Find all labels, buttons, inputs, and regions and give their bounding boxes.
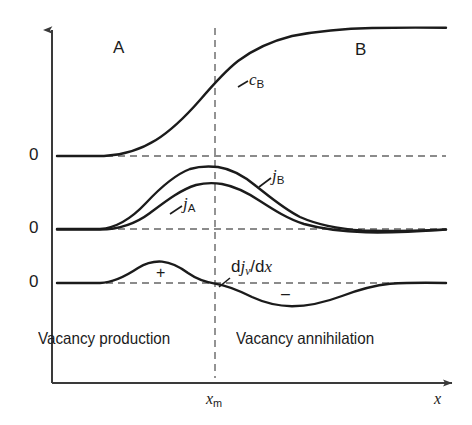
leader-line-jb <box>259 178 271 187</box>
sign-minus-label: – <box>281 286 290 302</box>
curve-label-cb-symbol: c <box>249 70 257 89</box>
phase-label-b: B <box>355 41 367 58</box>
leader-lines-layer <box>0 0 472 425</box>
curve-label-djv-x: x <box>265 257 273 276</box>
leader-line-ja <box>170 206 182 214</box>
curve-label-cb: cB <box>249 71 264 91</box>
curve-label-ja-subscript: A <box>188 202 196 214</box>
xm-tick-label: xm <box>206 391 222 409</box>
leader-line-cb <box>238 81 248 87</box>
xm-tick-subscript: m <box>213 397 222 409</box>
leader-line-djv <box>219 278 230 287</box>
region-label-vacancy-annihilation: Vacancy annihilation <box>236 330 374 347</box>
phase-label-a: A <box>113 39 125 56</box>
zero-label-flux: 0 <box>29 219 38 236</box>
zero-label-divergence: 0 <box>29 273 38 290</box>
zero-label-concentration: 0 <box>29 146 38 163</box>
region-label-vacancy-production: Vacancy production <box>38 330 170 347</box>
sign-plus-label: + <box>156 265 165 281</box>
curve-label-cb-subscript: B <box>257 78 265 90</box>
curve-label-ja: jA <box>183 195 195 215</box>
x-axis-label: x <box>434 391 441 407</box>
curve-label-djv-slash-d: /d <box>250 257 264 276</box>
vacancy-flux-diagram: A B 0 0 0 cB jB jA djv/dx + – Vacancy pr… <box>0 0 472 425</box>
curve-label-jb: jB <box>272 167 284 187</box>
curve-label-jb-subscript: B <box>277 174 285 186</box>
curve-label-djv: djv/dx <box>231 258 272 278</box>
